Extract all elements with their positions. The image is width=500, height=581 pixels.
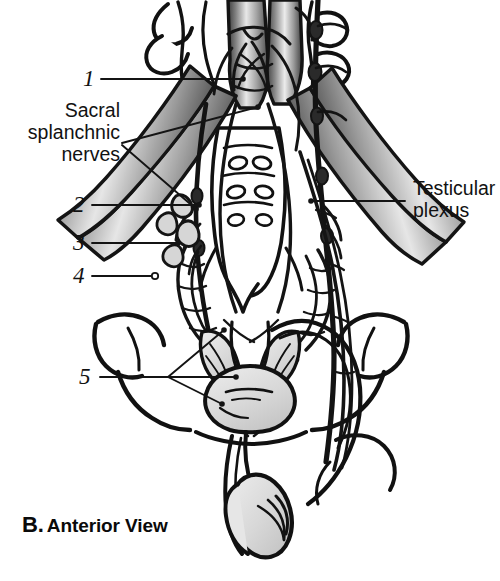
- right-ganglion-3: [311, 108, 323, 125]
- label-sacral-splanchnic-nerves: Sacral splanchnic nerves: [0, 100, 120, 165]
- leader-dot-1: [240, 76, 246, 82]
- label-number-2: 2: [73, 192, 85, 218]
- caption-letter: B.: [22, 512, 44, 537]
- anatomy-illustration: [0, 0, 500, 581]
- sacral-splanchnic-line-2: splanchnic: [0, 122, 120, 144]
- leader-dot-4: [152, 273, 158, 279]
- leader-dot-5-a: [221, 327, 227, 333]
- label-number-3: 3: [73, 230, 85, 256]
- leader-dot-2: [196, 202, 202, 208]
- caption-text: Anterior View: [47, 515, 168, 536]
- plexus-nodule-left-3: [157, 213, 177, 235]
- leader-dot-5-c: [219, 401, 225, 407]
- right-ganglion-1: [310, 21, 323, 39]
- testicular-plexus-line-1: Testicular: [413, 178, 500, 200]
- label-number-5: 5: [79, 364, 91, 390]
- anatomy-figure: 1 2 3 4 5 Sacral splanchnic nerves Testi…: [0, 0, 500, 581]
- plexus-nodule-left-4: [163, 245, 183, 267]
- leader-dot-sacral-a: [255, 104, 261, 110]
- sacral-splanchnic-line-3: nerves: [0, 144, 120, 166]
- figure-caption: B.Anterior View: [22, 512, 168, 538]
- label-number-1: 1: [83, 66, 95, 92]
- leader-dot-3: [175, 240, 181, 246]
- testicular-plexus-line-2: plexus: [413, 200, 500, 222]
- label-testicular-plexus: Testicular plexus: [413, 178, 500, 222]
- sacral-splanchnic-line-1: Sacral: [0, 100, 120, 122]
- leader-dot-testicular: [308, 198, 314, 204]
- label-number-4: 4: [73, 263, 85, 289]
- sacrum-body: [212, 128, 285, 296]
- inferior-vena-cava: [267, 0, 302, 104]
- right-ganglion-4: [316, 168, 328, 185]
- left-ganglion-1: [192, 188, 203, 204]
- leader-dot-5-b: [233, 374, 239, 380]
